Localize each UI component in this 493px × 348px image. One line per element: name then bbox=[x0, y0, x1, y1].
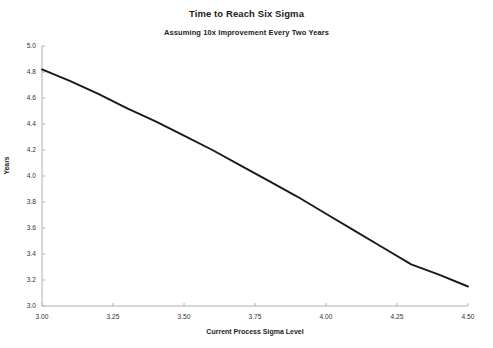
x-tick-label: 4.50 bbox=[448, 313, 488, 320]
y-tick-label: 3.8 bbox=[6, 198, 36, 205]
x-tick-label: 3.50 bbox=[164, 313, 204, 320]
x-tick-label: 3.25 bbox=[93, 313, 133, 320]
x-tick-label: 3.00 bbox=[22, 313, 62, 320]
x-tick-label: 4.25 bbox=[377, 313, 417, 320]
x-tick-label: 3.75 bbox=[235, 313, 275, 320]
data-line bbox=[42, 69, 468, 286]
y-tick-label: 3.6 bbox=[6, 224, 36, 231]
chart-figure: Time to Reach Six Sigma Assuming 10x Imp… bbox=[0, 0, 493, 348]
y-tick-label: 4.6 bbox=[6, 94, 36, 101]
plot-area bbox=[0, 0, 493, 348]
x-tick-label: 4.00 bbox=[306, 313, 346, 320]
y-tick-label: 4.0 bbox=[6, 172, 36, 179]
y-tick-label: 3.0 bbox=[6, 302, 36, 309]
y-tick-label: 5.0 bbox=[6, 42, 36, 49]
y-tick-label: 4.2 bbox=[6, 146, 36, 153]
y-tick-label: 4.8 bbox=[6, 68, 36, 75]
y-tick-label: 3.4 bbox=[6, 250, 36, 257]
y-tick-label: 4.4 bbox=[6, 120, 36, 127]
y-tick-label: 3.2 bbox=[6, 276, 36, 283]
